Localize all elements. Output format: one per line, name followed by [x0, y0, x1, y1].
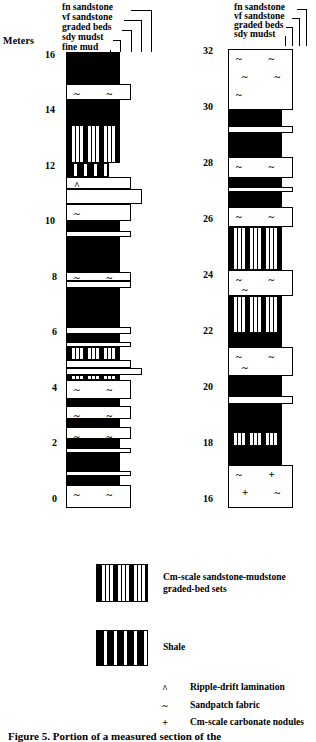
right-axis-tick-24: 24: [203, 269, 213, 280]
left-axis-tick-8: 8: [52, 271, 57, 282]
leader-elbow-vf-sandstone-left: [124, 20, 142, 21]
right-axis-tick-26: 26: [203, 213, 213, 224]
bed-black: [228, 404, 282, 432]
bed-black: [66, 419, 120, 427]
bed-graded: [66, 125, 120, 163]
bed-graded: [228, 227, 282, 270]
bed-black: [66, 453, 120, 471]
left-header-graded-beds: graded beds: [62, 22, 111, 32]
bed-black: [66, 237, 120, 271]
bed-black: [228, 446, 282, 465]
figure-caption: Figure 5. Portion of a measured section …: [8, 730, 221, 742]
sandpatch-fabric-symbol: ~: [242, 71, 248, 82]
sandpatch-fabric-symbol: ~: [107, 88, 113, 99]
sandpatch-fabric-symbol: ~: [74, 489, 80, 500]
sandpatch-fabric-symbol: ~: [242, 284, 248, 295]
legend-label-graded-bed-sets-line1: Cm-scale sandstone-mudstone: [163, 572, 286, 584]
sandpatch-fabric-symbol: ~: [236, 351, 242, 362]
left-axis-tick-14: 14: [45, 104, 55, 115]
right-axis-tick-22: 22: [203, 325, 213, 336]
left-header-fine-mud: fine mud: [62, 42, 98, 52]
sandpatch-fabric-symbol: ~: [236, 53, 242, 64]
stratigraphic-figure: fn sandstone vf sandstone graded beds sd…: [0, 0, 316, 742]
left-axis-tick-4: 4: [52, 382, 57, 393]
left-header-vf-sandstone: vf sandstone: [62, 12, 112, 22]
bed-black: [228, 376, 282, 387]
bed-white: [66, 231, 131, 238]
legend-symbol-carbonate-nodules: +: [158, 717, 172, 728]
left-header-fn-sandstone: fn sandstone: [62, 2, 113, 12]
sandpatch-fabric-symbol: ~: [74, 208, 80, 219]
legend-label-graded-bed-sets-line2: graded-bed sets: [163, 584, 227, 596]
sandpatch-fabric-symbol: ~: [275, 71, 281, 82]
sandpatch-fabric-symbol: ~: [269, 161, 275, 172]
bed-black: [228, 133, 282, 158]
legend-swatch-shale: [96, 630, 148, 666]
leader-line-vf-sandstone-right: [299, 18, 300, 46]
bed-white: [228, 126, 293, 133]
bed-black: [228, 178, 282, 186]
bed-black: [66, 399, 120, 406]
bed-graded: [66, 347, 120, 359]
carbonate-nodule-symbol: +: [269, 469, 275, 480]
sandpatch-fabric-symbol: ~: [236, 89, 242, 100]
leader-elbow-graded-beds-right: [286, 27, 293, 28]
carbonate-nodule-symbol: +: [242, 487, 248, 498]
bed-white: [66, 360, 131, 368]
right-axis-tick-28: 28: [203, 157, 213, 168]
bed-black: [66, 476, 120, 484]
bed-black: [66, 52, 120, 84]
leader-line-fn-sandstone-right: [306, 9, 307, 46]
sandpatch-fabric-symbol: ~: [74, 384, 80, 395]
leader-line-fn-sandstone-left: [151, 10, 152, 52]
sandpatch-fabric-symbol: ~: [269, 211, 275, 222]
bed-black: [228, 387, 282, 395]
legend-symbol-ripple-drift: ^: [158, 683, 172, 694]
bed-white: [66, 281, 131, 288]
legend-symbol-sandpatch-fabric: ~: [158, 700, 172, 711]
left-axis-tick-16: 16: [45, 49, 55, 60]
bed-black: [66, 439, 120, 447]
bed-white: [66, 368, 142, 375]
bed-white: [228, 396, 293, 404]
leader-line-vf-sandstone-left: [141, 20, 142, 52]
leader-line-sdy-mudst-left: [120, 40, 121, 52]
legend-label-sandpatch-fabric: Sandpatch fabric: [190, 700, 260, 712]
left-axis-tick-2: 2: [52, 437, 57, 448]
left-axis-tick-10: 10: [45, 215, 55, 226]
legend-label-ripple-drift: Ripple-drift lamination: [190, 682, 285, 694]
leader-elbow-graded-beds-left: [122, 30, 132, 31]
right-axis-tick-20: 20: [203, 381, 213, 392]
right-axis-tick-18: 18: [203, 437, 213, 448]
leader-line-graded-beds-left: [131, 30, 132, 52]
leader-line-sdy-mudst-right: [285, 36, 286, 46]
bed-black: [66, 288, 120, 326]
bed-white: [66, 327, 131, 334]
sandpatch-fabric-symbol: ~: [269, 351, 275, 362]
legend-swatch-graded-bed-sets: [96, 564, 148, 602]
sandpatch-fabric-symbol: ~: [74, 88, 80, 99]
bed-black: [66, 100, 120, 125]
right-axis-tick-30: 30: [203, 101, 213, 112]
bed-graded: [228, 432, 282, 446]
left-axis-tick-6: 6: [52, 326, 57, 337]
left-header-sdy-mudst: sdy mudst: [62, 32, 103, 42]
bed-black: [228, 192, 282, 207]
sandpatch-fabric-symbol: ~: [269, 53, 275, 64]
leader-elbow-sdy-mudst-left: [113, 40, 121, 41]
sandpatch-fabric-symbol: ~: [236, 161, 242, 172]
sandpatch-fabric-symbol: ~: [236, 274, 242, 285]
bed-black: [228, 110, 282, 125]
leader-line-graded-beds-right: [292, 27, 293, 46]
left-axis-tick-12: 12: [45, 160, 55, 171]
legend-label-shale: Shale: [163, 642, 185, 654]
axis-units-label: Meters: [3, 35, 34, 46]
sandpatch-fabric-symbol: ~: [107, 384, 113, 395]
leader-elbow-fn-sandstone-left: [131, 10, 152, 11]
bed-graded: [228, 296, 282, 333]
sandpatch-fabric-symbol: ~: [236, 211, 242, 222]
bed-shale: [66, 163, 109, 177]
bed-black: [66, 221, 120, 231]
sandpatch-fabric-symbol: ~: [107, 489, 113, 500]
sandpatch-fabric-symbol: ~: [275, 487, 281, 498]
